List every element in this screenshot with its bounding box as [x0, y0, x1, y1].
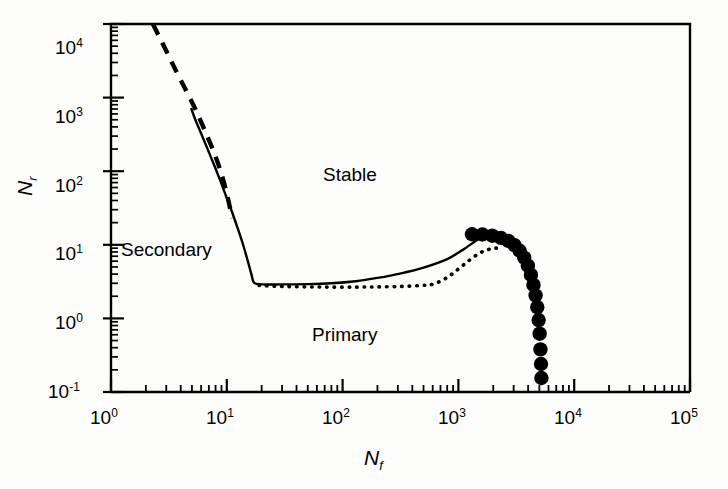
frame-border	[111, 24, 690, 392]
y-axis-title-main: N	[13, 181, 36, 196]
data-point-marker	[530, 300, 544, 314]
curve-dotted-boundary	[259, 248, 502, 287]
region-label-primary: Primary	[312, 325, 377, 344]
region-label-secondary: Secondary	[121, 240, 212, 259]
y-tick-label-m1: 10-1	[48, 382, 80, 401]
y-tick-label-2: 102	[55, 176, 83, 195]
x-axis-title: Nf	[364, 447, 383, 468]
x-tick-label-1: 101	[206, 408, 234, 427]
marker-series-filled-circle-markers	[465, 227, 549, 385]
data-point-marker	[533, 342, 547, 356]
data-point-marker	[532, 326, 546, 340]
x-tick-label-0: 100	[90, 408, 118, 427]
figure-container: 100 101 102 103 104 105 104 103 102 101 …	[0, 0, 728, 489]
data-point-marker	[534, 357, 548, 371]
y-tick-label-4: 104	[55, 38, 83, 57]
data-point-marker	[531, 313, 545, 327]
curve-dashed-boundary	[153, 24, 232, 218]
curve-solid-stability-boundary	[191, 109, 500, 284]
x-tick-label-2: 102	[322, 408, 350, 427]
x-tick-label-3: 103	[438, 408, 466, 427]
y-axis-title-wrapper: Nr	[14, 176, 35, 196]
region-label-stable: Stable	[323, 165, 377, 184]
y-axis-title-sub: r	[25, 176, 40, 180]
plot-frame	[111, 24, 690, 392]
x-tick-label-4: 104	[554, 408, 582, 427]
y-axis-title: Nr	[14, 176, 35, 196]
x-axis-title-sub: f	[379, 458, 383, 473]
y-tick-label-3: 103	[55, 107, 83, 126]
y-axis-ticks	[103, 24, 124, 392]
x-tick-label-5: 105	[670, 408, 698, 427]
x-axis-ticks	[111, 379, 690, 392]
y-tick-label-1: 101	[55, 244, 83, 263]
y-tick-label-0: 100	[55, 313, 83, 332]
x-axis-title-main: N	[364, 446, 379, 469]
data-point-marker	[534, 371, 548, 385]
